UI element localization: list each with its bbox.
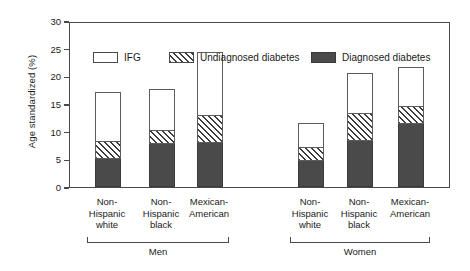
bar-segment-ifg — [398, 67, 424, 107]
y-tick-label: 25 — [50, 43, 61, 56]
legend-item-undiag: Undiagnosed diabetes — [169, 51, 300, 64]
bar-stack — [398, 68, 424, 187]
bar-segment-ifg — [149, 89, 175, 131]
x-category-label-line: black — [129, 219, 193, 231]
bar-segment-undiag — [197, 115, 223, 143]
bar-segment-ifg — [298, 123, 324, 148]
y-tick-label: 20 — [50, 70, 61, 83]
legend-label: IFG — [124, 52, 141, 63]
bar-stack — [347, 74, 373, 187]
x-category-label: Mexican-American — [177, 196, 241, 219]
y-tick-label: 5 — [56, 153, 61, 166]
bar-stack — [95, 93, 121, 187]
group-label: Women — [290, 246, 430, 257]
y-tick-label: 30 — [50, 15, 61, 28]
legend-label: Undiagnosed diabetes — [200, 52, 300, 63]
bar-segment-diag — [347, 140, 373, 187]
bar-segment-ifg — [347, 73, 373, 114]
bar-segment-diag — [298, 160, 324, 187]
x-category-label-line: American — [177, 208, 241, 220]
bar-segment-undiag — [95, 141, 121, 160]
bar-segment-diag — [149, 143, 175, 187]
legend-swatch-undiag — [169, 52, 194, 63]
y-axis-label: Age standardized (%) — [26, 27, 37, 177]
legend-swatch-diag — [311, 52, 336, 63]
bar-stack — [298, 124, 324, 187]
bar-segment-undiag — [149, 130, 175, 144]
x-category-label-line: black — [327, 219, 391, 231]
x-category-label-line: Mexican- — [378, 196, 442, 208]
bar-segment-undiag — [347, 113, 373, 141]
bar-segment-undiag — [398, 106, 424, 125]
group-bracket — [87, 237, 229, 243]
bar-stack — [149, 90, 175, 187]
legend-swatch-ifg — [93, 52, 118, 63]
bar-segment-diag — [197, 142, 223, 187]
y-tick-label: 15 — [50, 98, 61, 111]
x-category-label-line: American — [378, 208, 442, 220]
legend-item-ifg: IFG — [93, 51, 141, 64]
chart-figure: Age standardized (%) 051015202530 IFGUnd… — [0, 0, 470, 271]
x-category-label: Mexican-American — [378, 196, 442, 219]
bar-segment-diag — [95, 158, 121, 187]
legend-item-diag: Diagnosed diabetes — [311, 51, 430, 64]
group-label: Men — [87, 246, 229, 257]
legend-label: Diagnosed diabetes — [342, 52, 430, 63]
bar-segment-ifg — [95, 92, 121, 142]
y-tick-label: 10 — [50, 126, 61, 139]
bar-segment-diag — [398, 123, 424, 187]
group-bracket — [290, 237, 430, 243]
bar-segment-undiag — [298, 147, 324, 161]
y-tick-label: 0 — [56, 181, 61, 194]
plot-area: IFGUndiagnosed diabetesDiagnosed diabete… — [69, 22, 450, 188]
x-category-label-line: Mexican- — [177, 196, 241, 208]
bar-stack — [197, 53, 223, 187]
